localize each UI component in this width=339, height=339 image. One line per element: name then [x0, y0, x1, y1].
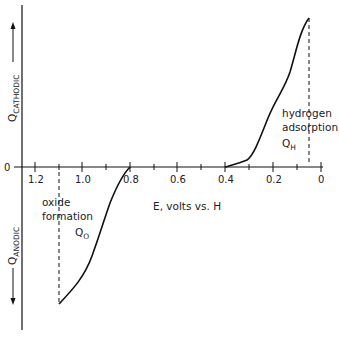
y-label-cathodic: QCATHODIC: [6, 75, 21, 122]
down-arrow-icon: [11, 298, 16, 305]
oxide-q-label: QO: [75, 226, 89, 241]
oxide-label-line1: oxide: [42, 196, 70, 208]
svg-text:QCATHODIC: QCATHODIC: [6, 75, 21, 122]
x-tick-label: 0.4: [218, 174, 234, 185]
x-tick-label: 0: [318, 174, 324, 185]
y-label-anodic: QANODIC: [6, 227, 21, 265]
oxide-label-line2: formation: [42, 210, 93, 222]
oxide-formation-curve: [59, 167, 130, 304]
x-tick-label: 0.6: [170, 174, 186, 185]
svg-text:QANODIC: QANODIC: [6, 227, 21, 265]
hydrogen-label-line1: hydrogen: [282, 107, 332, 119]
x-axis-title: E, volts vs. H: [153, 200, 221, 212]
x-tick-label: 0.2: [266, 174, 282, 185]
charge-potential-chart: 0 1.2 1.0 0.8 0.6 0.4 0.2 0 E, volts vs.…: [0, 0, 339, 339]
hydrogen-label-line2: adsorption: [282, 121, 338, 133]
hydrogen-adsorption-curve: [225, 18, 309, 167]
x-tick-label: 0.8: [123, 174, 139, 185]
x-tick-label: 1.0: [75, 174, 91, 185]
x-tick-label: 1.2: [28, 174, 44, 185]
up-arrow-icon: [11, 22, 16, 29]
hydrogen-q-label: QH: [282, 137, 296, 152]
y-zero-label: 0: [4, 162, 10, 173]
